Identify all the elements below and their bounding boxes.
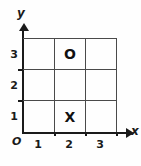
x-tick-mark: [116, 132, 118, 136]
grid-cell-2-1[interactable]: X: [54, 101, 85, 132]
grid-cell-3-1[interactable]: [85, 101, 116, 132]
grid-cell-2-2[interactable]: [54, 70, 85, 101]
x-tick-label-2: 2: [59, 139, 79, 150]
grid-cell-1-2[interactable]: [23, 70, 54, 101]
coordinate-grid-figure: y x O 3 2 1 1 2 3 O: [0, 0, 141, 166]
x-tick-label-1: 1: [28, 139, 48, 150]
grid-cell-1-1[interactable]: [23, 101, 54, 132]
grid-cell-3-3[interactable]: [85, 39, 116, 70]
grid-cell-3-2[interactable]: [85, 70, 116, 101]
x-tick-mark: [85, 132, 87, 136]
y-axis-label: y: [17, 7, 25, 19]
y-tick-label-1: 1: [7, 111, 18, 122]
grid-cell-2-3[interactable]: O: [54, 39, 85, 70]
circle-mark: O: [64, 47, 76, 61]
origin-label: O: [12, 136, 21, 147]
grid-cell-1-3[interactable]: [23, 39, 54, 70]
y-tick-label-3: 3: [7, 49, 18, 60]
grid: O X: [23, 38, 117, 132]
x-axis-label: x: [131, 125, 139, 137]
y-tick-label-2: 2: [7, 80, 18, 91]
x-tick-label-3: 3: [90, 139, 110, 150]
cross-mark: X: [65, 110, 76, 124]
up-arrow-icon: [19, 23, 29, 31]
x-tick-mark: [54, 132, 56, 136]
